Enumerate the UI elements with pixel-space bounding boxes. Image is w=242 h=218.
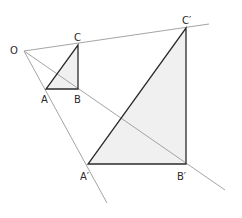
label-B: B [74, 94, 81, 105]
label-O: O [10, 45, 18, 56]
ray-OB [24, 51, 225, 190]
label-C-prime: C′ [182, 15, 192, 26]
label-C: C [74, 32, 81, 43]
enlargement-diagram: O C A B C′ A′ B′ [0, 0, 242, 218]
label-A: A [41, 94, 48, 105]
label-A-prime: A′ [80, 171, 90, 182]
label-B-prime: B′ [177, 171, 187, 182]
